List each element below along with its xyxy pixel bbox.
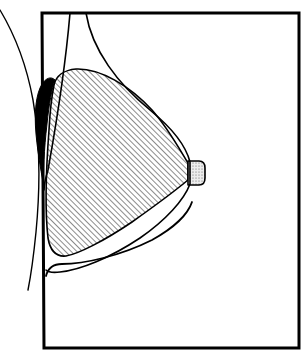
breast-lateral-diagram <box>0 0 307 360</box>
diagram-canvas <box>0 0 307 360</box>
